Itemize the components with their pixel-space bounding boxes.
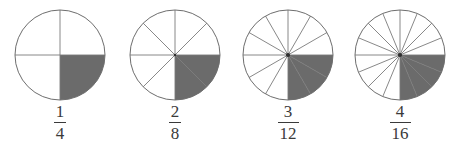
- fraction-bar: [278, 122, 299, 123]
- fraction-label: 28: [124, 103, 226, 142]
- pie-center-dot: [398, 53, 402, 57]
- pie-center-dot: [174, 54, 176, 56]
- fraction-denominator: 8: [169, 124, 182, 142]
- pie-chart: [127, 7, 223, 103]
- fraction-denominator: 12: [278, 124, 299, 142]
- pie-center-dot: [286, 53, 290, 57]
- fraction-model-4-over-16: 416: [349, 0, 451, 150]
- fraction-bar: [54, 122, 67, 123]
- fraction-bar: [169, 122, 182, 123]
- fraction: 416: [390, 103, 411, 142]
- fraction-label: 312: [237, 103, 339, 142]
- fraction-model-2-over-8: 28: [124, 0, 226, 150]
- fraction-numerator: 3: [278, 103, 299, 121]
- pie-chart: [12, 7, 108, 103]
- fraction-bar: [390, 122, 411, 123]
- fraction: 312: [278, 103, 299, 142]
- fraction-numerator: 4: [390, 103, 411, 121]
- pie-sector-shaded: [60, 55, 105, 100]
- fraction-model-1-over-4: 14: [9, 0, 111, 150]
- fraction: 28: [169, 103, 182, 142]
- fraction-denominator: 16: [390, 124, 411, 142]
- pie-chart-wrapper: [240, 7, 336, 107]
- fraction: 14: [54, 103, 67, 142]
- pie-chart-wrapper: [127, 7, 223, 107]
- equivalent-fractions-figure: 1428312416: [0, 0, 457, 150]
- fraction-model-3-over-12: 312: [237, 0, 339, 150]
- fraction-numerator: 2: [169, 103, 182, 121]
- pie-chart-wrapper: [352, 7, 448, 107]
- fraction-label: 416: [349, 103, 451, 142]
- pie-chart: [352, 7, 448, 103]
- fraction-label: 14: [9, 103, 111, 142]
- pie-chart-wrapper: [12, 7, 108, 107]
- fraction-numerator: 1: [54, 103, 67, 121]
- fraction-denominator: 4: [54, 124, 67, 142]
- pie-chart: [240, 7, 336, 103]
